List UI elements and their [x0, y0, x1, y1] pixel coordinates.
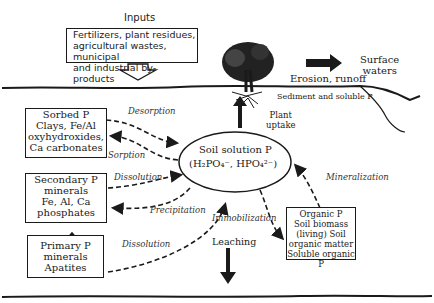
dissolution-label-primary: Dissolution [122, 239, 170, 249]
inputs-line: and industrial by-products [73, 62, 197, 84]
inputs-line: Fertilizers, plant residues, [73, 29, 197, 40]
tree-icon [222, 42, 274, 108]
sorbed-p-box: Sorbed PClays, Fe/Aloxyhydroxides,Ca car… [25, 108, 107, 158]
soil-solution-formula: (H₂PO₄⁻, HPO₄²⁻) [189, 158, 277, 169]
inputs-box: Fertilizers, plant residues, agricultura… [66, 28, 198, 63]
erosion-label: Erosion, runoff [290, 73, 366, 84]
inputs-line: agricultural wastes, municipal [73, 40, 197, 62]
plant-uptake-label: Plantuptake [266, 110, 296, 130]
sorption-label: Sorption [108, 150, 145, 160]
secondary-p-box: Secondary PmineralsFe, Al, Caphosphates [25, 173, 107, 223]
primary-p-box: Primary PmineralsApatites [27, 235, 104, 278]
sediment-label: Sediment and soluble P [277, 92, 373, 101]
immobilization-label: Immobilization [212, 213, 276, 223]
dissolution-label-secondary: Dissolution [114, 172, 162, 182]
erosion-arrow-icon [306, 54, 342, 72]
desorption-label: Desorption [128, 106, 176, 116]
bottom-boundary-line [2, 296, 432, 297]
precipitation-label: Precipitation [150, 205, 206, 215]
mineralization-label: Mineralization [326, 172, 389, 182]
soil-solution-title: Soil solution P [199, 144, 272, 155]
organic-p-box: Organic PSoil biomass(living) Soilorgani… [286, 207, 356, 260]
leaching-arrow-icon [220, 248, 236, 284]
leaching-label: Leaching [212, 236, 256, 247]
inputs-heading: Inputs [124, 12, 155, 23]
